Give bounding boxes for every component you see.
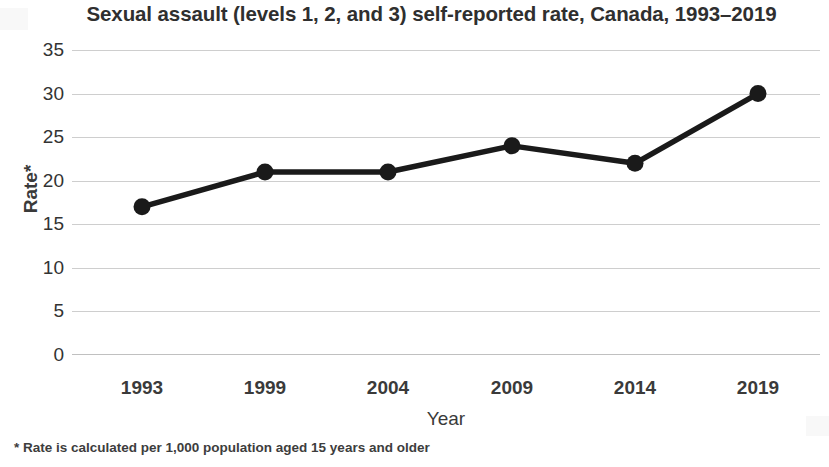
- series-markers: [134, 85, 767, 215]
- y-tick-label: 30: [18, 83, 64, 105]
- data-point-marker: [257, 164, 274, 181]
- data-point-marker: [750, 85, 767, 102]
- y-tick-label: 10: [18, 257, 64, 279]
- chart-footnote: * Rate is calculated per 1,000 populatio…: [14, 440, 430, 455]
- x-tick-label: 2014: [614, 377, 656, 399]
- chart-title: Sexual assault (levels 1, 2, and 3) self…: [0, 2, 829, 26]
- y-tick-label: 5: [18, 300, 64, 322]
- y-tick-label: 25: [18, 126, 64, 148]
- series-polyline: [142, 94, 758, 207]
- x-tick-label: 2009: [491, 377, 533, 399]
- y-tick-label: 15: [18, 213, 64, 235]
- y-tick-label: 35: [18, 39, 64, 61]
- x-tick-label: 1999: [244, 377, 286, 399]
- data-point-marker: [380, 164, 397, 181]
- x-tick-label: 1993: [121, 377, 163, 399]
- y-axis-tick-labels: 35 30 25 20 15 10 5 0: [14, 50, 64, 355]
- x-axis-title: Year: [72, 408, 820, 430]
- data-point-marker: [134, 198, 151, 215]
- x-axis-tick-labels: 1993 1999 2004 2009 2014 2019: [72, 355, 820, 395]
- plot-area: [72, 50, 820, 355]
- y-tick-label: 20: [18, 170, 64, 192]
- data-point-marker: [627, 155, 644, 172]
- y-tick-label: 0: [18, 344, 64, 366]
- data-series-line: [72, 50, 820, 355]
- x-tick-label: 2019: [737, 377, 779, 399]
- chart-figure: Sexual assault (levels 1, 2, and 3) self…: [0, 0, 829, 467]
- data-point-marker: [504, 137, 521, 154]
- x-tick-label: 2004: [367, 377, 409, 399]
